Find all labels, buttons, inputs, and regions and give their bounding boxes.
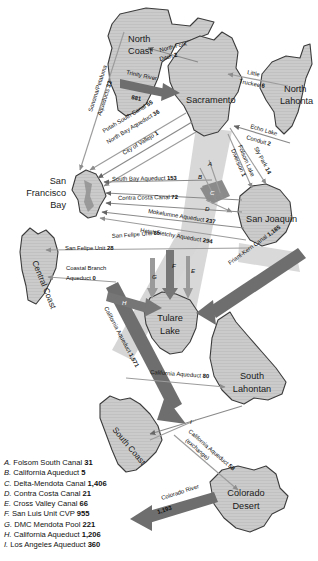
- legend-name: California Aqueduct: [13, 468, 79, 477]
- legend-name: San Luis Unit CVP: [12, 509, 75, 518]
- legend-key: E.: [4, 499, 11, 508]
- flowlabel-sfu28: San Felipe Unit 28: [65, 245, 114, 251]
- legend-value: 1,206: [82, 530, 101, 539]
- legend-key: D.: [4, 489, 12, 498]
- legend-item: G. DMC Mendota Pool 221: [4, 520, 154, 530]
- legend-value: 360: [88, 540, 101, 549]
- key-letter-I: I: [190, 418, 192, 425]
- legend-value: 1,406: [88, 479, 107, 488]
- legend-name: Delta-Mendota Canal: [14, 479, 86, 488]
- legend-item: E. Cross Valley Canal 66: [4, 499, 154, 509]
- legend-key: A.: [4, 458, 11, 467]
- label-sf-bay-l3: Bay: [50, 200, 66, 210]
- label-south-lahontan-l2: Lahontan: [233, 384, 271, 394]
- legend-name: Contra Costa Canal: [14, 489, 81, 498]
- label-sacramento: Sacramento: [186, 95, 236, 105]
- label-sf-bay-l1: San: [50, 176, 66, 186]
- label-north-coast-l1: North: [128, 34, 150, 44]
- key-letter-G: G: [152, 273, 157, 280]
- legend-key: I.: [4, 540, 8, 549]
- label-colorado-desert-l2: Desert: [232, 501, 260, 511]
- legend-key: H.: [4, 530, 12, 539]
- legend-item: B. California Aqueduct 5: [4, 468, 154, 478]
- legend-value: 21: [83, 489, 91, 498]
- legend-key: B.: [4, 468, 11, 477]
- legend-item: A. Folsom South Canal 31: [4, 458, 154, 468]
- flowlabel-sba: South Bay Aqueduct 153: [112, 175, 178, 182]
- key-letter-D: D: [205, 205, 210, 212]
- label-sf-bay-l2: Francisco: [26, 188, 66, 198]
- legend-value: 31: [84, 458, 92, 467]
- flowlabel-ccc: Contra Costa Canal 72: [118, 194, 179, 201]
- legend-value: 221: [83, 520, 96, 529]
- legend-item: D. Contra Costa Canal 21: [4, 489, 154, 499]
- legend: A. Folsom South Canal 31 B. California A…: [4, 458, 154, 551]
- label-colorado-desert-l1: Colorado: [227, 488, 264, 498]
- label-south-lahontan-l1: South: [240, 371, 264, 381]
- label-north-coast-l2: Coast: [128, 46, 152, 56]
- key-letter-A: A: [207, 160, 212, 167]
- label-tulare-lake-l2: Lake: [160, 326, 180, 336]
- label-san-joaquin: San Joaquin: [246, 214, 297, 224]
- key-letter-C: C: [210, 189, 215, 196]
- legend-key: C.: [4, 479, 12, 488]
- legend-item: C. Delta-Mendota Canal 1,406: [4, 479, 154, 489]
- legend-name: Los Angeles Aqueduct: [10, 540, 85, 549]
- legend-name: Folsom South Canal: [13, 458, 82, 467]
- label-north-lahontan-l2: Lahonta: [280, 96, 314, 106]
- legend-item: F. San Luis Unit CVP 955: [4, 509, 154, 519]
- legend-item: H. California Aqueduct 1,206: [4, 530, 154, 540]
- label-north-lahontan-l1: North: [284, 84, 306, 94]
- flowlabel-coastal-l1: Coastal Branch: [66, 265, 106, 271]
- legend-value: 955: [77, 509, 90, 518]
- legend-value: 5: [81, 468, 85, 477]
- label-tulare-lake-l1: Tulare: [157, 313, 183, 323]
- key-letter-B: B: [198, 173, 202, 180]
- legend-name: Cross Valley Canal: [13, 499, 77, 508]
- key-letter-H: H: [122, 299, 127, 306]
- legend-name: DMC Mendota Pool: [14, 520, 80, 529]
- flowlabel-coastal-l2: Aqueduct 0: [66, 275, 97, 281]
- legend-name: California Aqueduct: [14, 530, 80, 539]
- legend-key: G.: [4, 520, 12, 529]
- legend-item: I. Los Angeles Aqueduct 360: [4, 540, 154, 550]
- legend-key: F.: [4, 509, 10, 518]
- legend-value: 66: [79, 499, 87, 508]
